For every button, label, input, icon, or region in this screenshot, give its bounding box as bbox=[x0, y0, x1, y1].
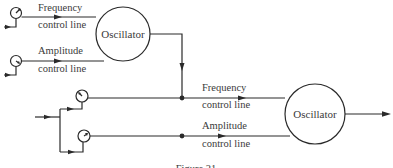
arrow-icon bbox=[67, 107, 74, 111]
control-knob-amplitude-1 bbox=[11, 56, 22, 67]
label-control-line-1: control line bbox=[38, 19, 86, 30]
label-amplitude-2: Amplitude bbox=[202, 120, 247, 131]
branch-to-knob-3 bbox=[60, 102, 82, 109]
arrow-icon bbox=[44, 115, 51, 119]
arrow-icon bbox=[5, 25, 11, 29]
label-control-line-2: control line bbox=[38, 63, 86, 74]
oscillator-diagram: Frequency control line Amplitude control… bbox=[0, 0, 393, 168]
oscillator-2-label: Oscillator bbox=[293, 108, 337, 120]
label-control-line-4: control line bbox=[202, 138, 250, 149]
label-control-line-3: control line bbox=[202, 99, 250, 110]
branch-to-knob-4 bbox=[60, 142, 83, 152]
label-frequency-2: Frequency bbox=[202, 82, 247, 93]
control-knob-frequency-2 bbox=[76, 90, 88, 102]
arrow-icon bbox=[180, 63, 185, 71]
control-knob-amplitude-2 bbox=[78, 130, 90, 142]
junction-dot-2 bbox=[180, 134, 185, 139]
label-frequency-1: Frequency bbox=[38, 2, 83, 13]
arrow-icon bbox=[68, 150, 75, 154]
control-knob-frequency-1 bbox=[11, 8, 22, 19]
oscillator-1-output-line bbox=[150, 34, 182, 98]
label-amplitude-1: Amplitude bbox=[38, 45, 83, 56]
junction-dot-1 bbox=[180, 96, 185, 101]
figure-caption: Figure 21 bbox=[176, 163, 217, 168]
arrow-icon bbox=[5, 73, 11, 77]
oscillator-1-label: Oscillator bbox=[101, 28, 145, 40]
arrow-icon bbox=[382, 111, 391, 116]
